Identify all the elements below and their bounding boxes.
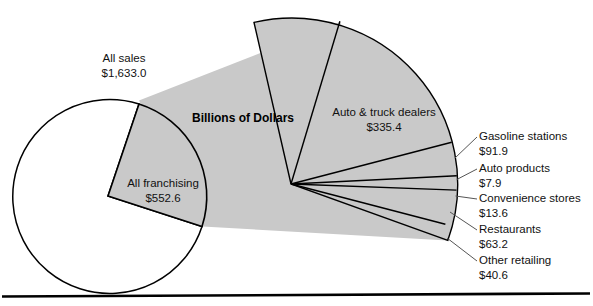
all-franchising-value: $552.6 [145,192,180,204]
units-title: Billions of Dollars [192,111,294,125]
baseline-rule-thick [2,294,590,297]
leader-line-auto-products [457,169,477,180]
auto-truck-dealers-value: $335.4 [366,121,402,133]
callout-restaurants-label: Restaurants [479,223,541,235]
callout-gasoline-stations: Gasoline stations $91.9 [479,130,567,157]
chart-canvas: All sales $1,633.0 All franchising $552.… [0,0,593,306]
callout-other-retailing-value: $40.6 [479,269,508,281]
leader-line-gasoline-stations [455,137,477,158]
callout-auto-products-value: $7.9 [479,177,501,189]
all-franchising-title: All franchising [127,177,199,189]
auto-truck-dealers-title: Auto & truck dealers [332,106,436,118]
callout-convenience-stores-label: Convenience stores [479,192,581,204]
callout-other-retailing: Other retailing $40.6 [479,254,551,281]
callout-convenience-stores-value: $13.6 [479,207,508,219]
callout-restaurants: Restaurants $63.2 [479,223,541,250]
callout-gasoline-stations-label: Gasoline stations [479,130,567,142]
leader-line-other-retailing [447,238,477,261]
pie-chart-figure: All sales $1,633.0 All franchising $552.… [0,0,593,306]
all-sales-title: All sales [103,52,146,64]
callout-auto-products: Auto products $7.9 [479,162,550,189]
baseline-rule [2,294,590,297]
all-sales-label: All sales $1,633.0 [102,52,147,79]
callout-auto-products-label: Auto products [479,162,550,174]
callout-gasoline-stations-value: $91.9 [479,145,508,157]
all-sales-value: $1,633.0 [102,67,147,79]
callout-convenience-stores: Convenience stores $13.6 [479,192,581,219]
callout-other-retailing-label: Other retailing [479,254,551,266]
callout-restaurants-value: $63.2 [479,238,508,250]
leader-line-convenience-stores [456,196,478,199]
